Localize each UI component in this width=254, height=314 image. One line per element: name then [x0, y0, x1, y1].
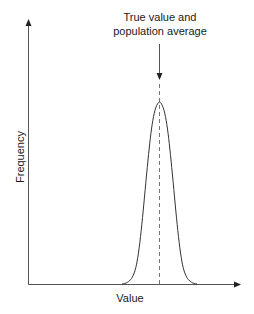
annotation-arrow-icon — [157, 73, 163, 80]
annotation-label: True value and population average — [95, 10, 225, 38]
x-axis-label: Value — [100, 291, 160, 305]
distribution-diagram — [0, 0, 254, 314]
y-axis-label: Frequency — [13, 117, 27, 197]
annotation-line-2: population average — [95, 24, 225, 38]
x-axis-arrow-icon — [234, 282, 241, 288]
annotation-line-1: True value and — [95, 10, 225, 24]
y-axis-arrow-icon — [26, 19, 32, 26]
